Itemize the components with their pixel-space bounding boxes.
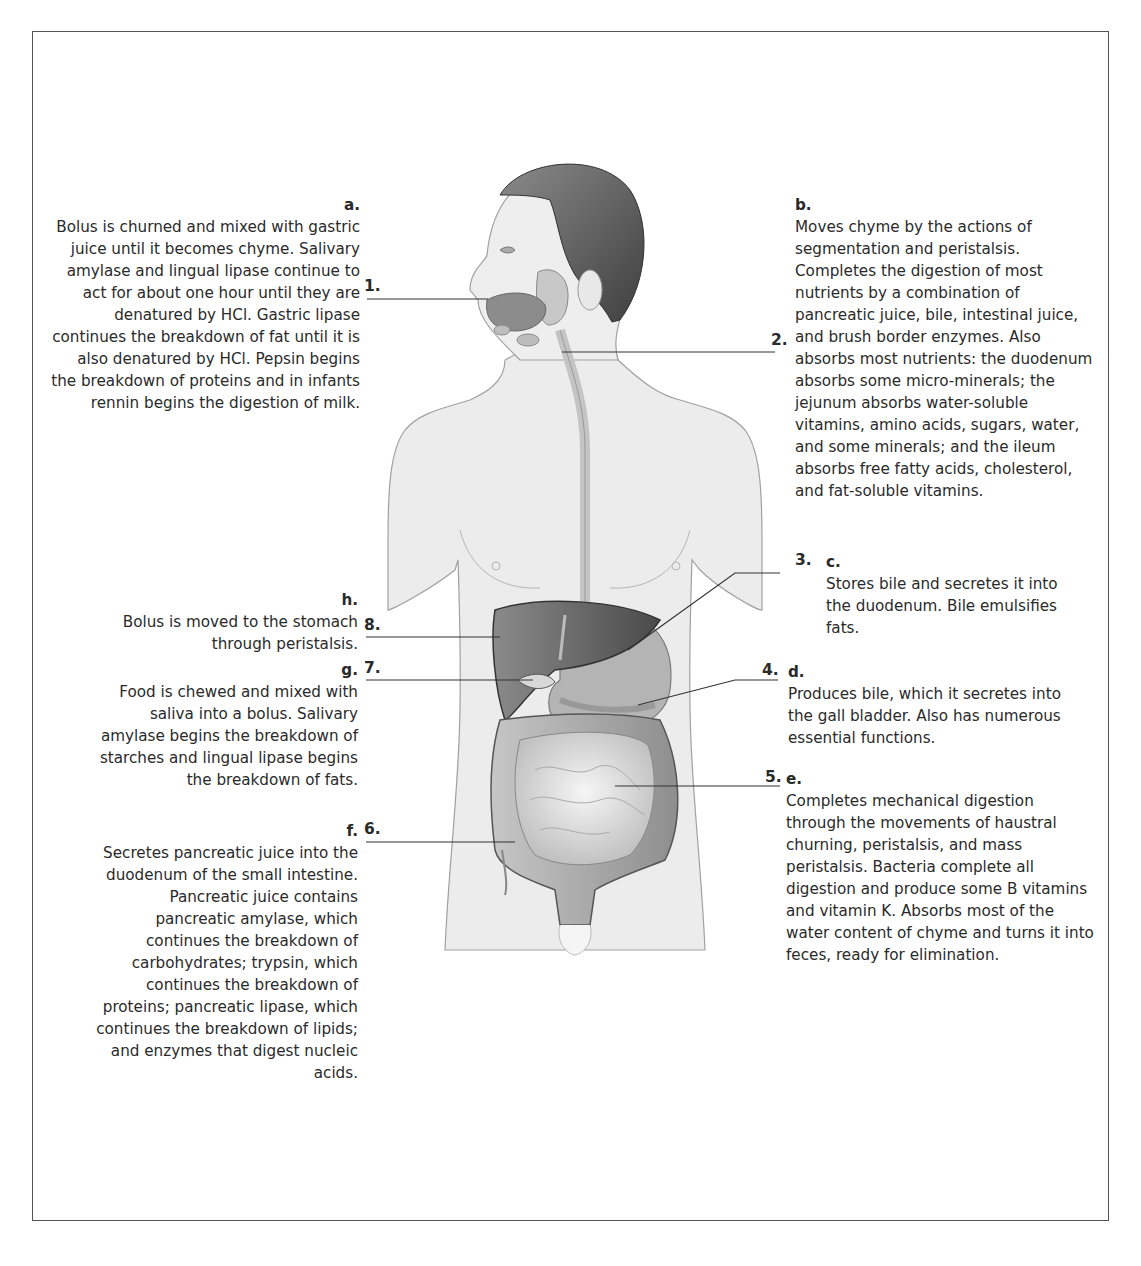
description-d-text: Produces bile, which it secretes into th… <box>788 683 1108 749</box>
description-g-text: Food is chewed and mixed with saliva int… <box>60 681 358 791</box>
description-h: h. Bolus is moved to the stomach through… <box>80 589 358 655</box>
description-b-text: Moves chyme by the actions of segmentati… <box>795 216 1115 502</box>
letter-e: e. <box>786 768 1111 790</box>
number-1: 1. <box>364 277 381 295</box>
description-f-text: Secretes pancreatic juice into the duode… <box>60 842 358 1084</box>
number-8: 8. <box>364 616 381 634</box>
description-a-text: Bolus is churned and mixed with gastric … <box>36 216 360 414</box>
description-c-text: Stores bile and secretes it into the duo… <box>826 573 1106 639</box>
description-d: d. Produces bile, which it secretes into… <box>788 661 1108 749</box>
letter-b: b. <box>795 194 1115 216</box>
number-3: 3. <box>795 551 812 569</box>
letter-f: f. <box>60 820 358 842</box>
letter-c: c. <box>826 551 1106 573</box>
number-5: 5. <box>765 768 782 786</box>
description-e-text: Completes mechanical digestion through t… <box>786 790 1111 966</box>
description-g: g. Food is chewed and mixed with saliva … <box>60 659 358 791</box>
letter-a: a. <box>36 194 360 216</box>
number-6: 6. <box>364 820 381 838</box>
number-7: 7. <box>364 659 381 677</box>
letter-d: d. <box>788 661 1108 683</box>
letter-h: h. <box>80 589 358 611</box>
description-b: b. Moves chyme by the actions of segment… <box>795 194 1115 502</box>
small-intestine <box>515 732 654 865</box>
number-2: 2. <box>771 331 788 349</box>
number-4: 4. <box>762 661 779 679</box>
description-c: c. Stores bile and secretes it into the … <box>826 551 1106 639</box>
letter-g: g. <box>60 659 358 681</box>
description-f: f. Secretes pancreatic juice into the du… <box>60 820 358 1084</box>
description-h-text: Bolus is moved to the stomach through pe… <box>80 611 358 655</box>
description-e: e. Completes mechanical digestion throug… <box>786 768 1111 966</box>
head <box>470 164 644 360</box>
description-a: a. Bolus is churned and mixed with gastr… <box>36 194 360 414</box>
